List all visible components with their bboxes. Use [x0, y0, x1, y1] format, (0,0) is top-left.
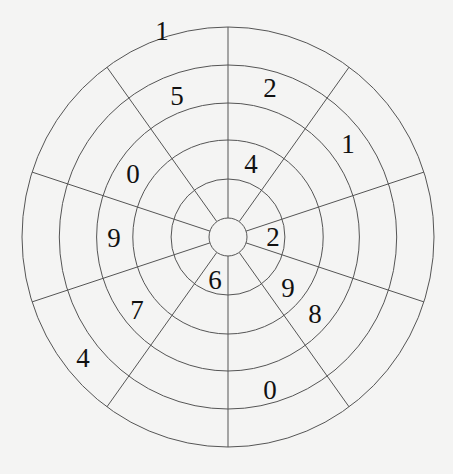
cell-number: 6 [208, 265, 222, 295]
center-hub-circle [209, 218, 247, 256]
ring-sector-grid: 15210492679840 [0, 0, 453, 474]
cell-number: 2 [263, 73, 277, 103]
cell-number: 5 [170, 81, 184, 111]
circular-number-diagram: 15210492679840 [0, 0, 453, 474]
cell-number: 2 [266, 222, 280, 252]
cell-number: 0 [263, 375, 277, 405]
cell-number: 1 [341, 129, 355, 159]
cell-number: 8 [308, 299, 322, 329]
cell-number: 0 [126, 159, 140, 189]
cell-numbers: 15210492679840 [76, 16, 355, 405]
cell-number: 4 [76, 343, 90, 373]
cell-number: 9 [107, 223, 121, 253]
cell-number: 9 [281, 273, 295, 303]
cell-number: 1 [155, 16, 169, 46]
cell-number: 4 [244, 149, 258, 179]
cell-number: 7 [130, 295, 144, 325]
